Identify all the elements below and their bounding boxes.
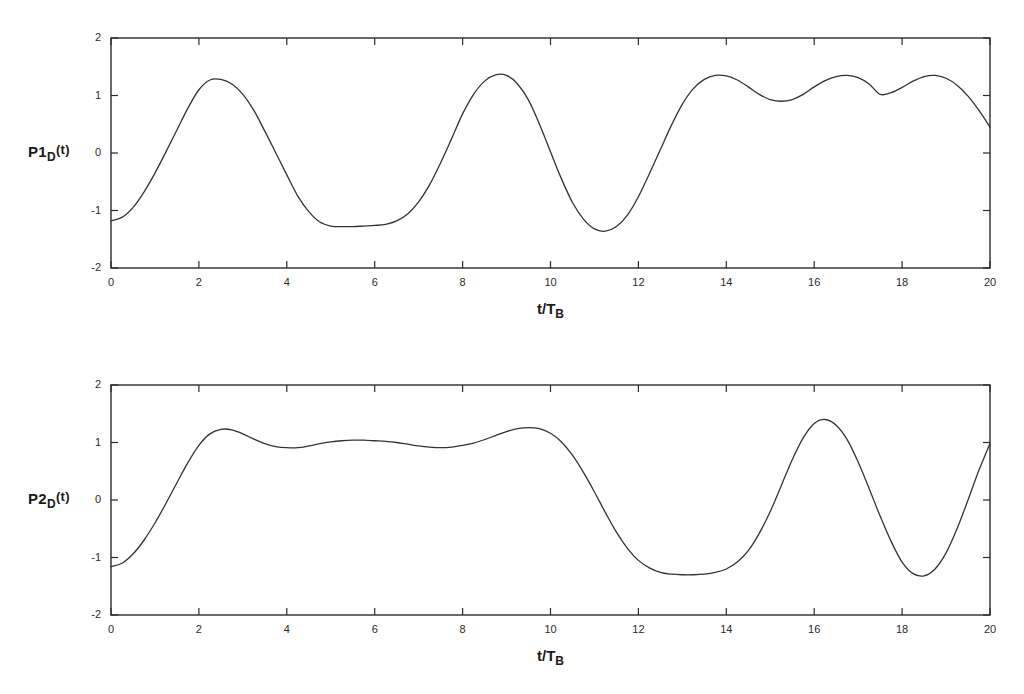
x-axis-tick-label: 16 (794, 276, 834, 288)
y-axis-tick-label: 0 (73, 493, 101, 505)
x-axis-tick-label: 14 (706, 623, 746, 635)
y-axis-tick-label: -2 (73, 608, 101, 620)
x-axis-tick-label: 6 (355, 623, 395, 635)
y-axis-label-p2d: P2D(t) (28, 489, 70, 511)
x-axis-tick-label: 2 (179, 276, 219, 288)
x-axis-tick-label: 2 (179, 623, 219, 635)
x-axis-label-subscript: B (555, 307, 564, 321)
plot-svg-p1d (0, 0, 1024, 347)
y-axis-label-subscript: D (47, 150, 56, 164)
x-axis-label-subscript: B (555, 654, 564, 668)
x-axis-tick-label: 4 (267, 276, 307, 288)
y-axis-tick-label: 2 (73, 378, 101, 390)
axis-frame (111, 385, 990, 615)
plot-svg-p2d (0, 347, 1024, 694)
y-axis-label-suffix: (t) (56, 142, 70, 157)
chart-panel-p1d: P1D(t) t/TB 02468101214161820-2-1012 (0, 0, 1024, 347)
y-axis-label-subscript: D (47, 497, 56, 511)
y-axis-label-p1d: P1D(t) (28, 142, 70, 164)
x-axis-tick-label: 10 (531, 623, 571, 635)
x-axis-tick-label: 14 (706, 276, 746, 288)
x-axis-label-main: t/T (537, 300, 555, 317)
y-axis-tick-label: 1 (73, 436, 101, 448)
x-axis-tick-label: 16 (794, 623, 834, 635)
x-axis-tick-label: 4 (267, 623, 307, 635)
y-axis-label-suffix: (t) (56, 489, 70, 504)
data-series-line (111, 419, 990, 576)
x-axis-tick-label: 18 (882, 276, 922, 288)
x-axis-label-main: t/T (537, 647, 555, 664)
y-axis-tick-label: -1 (73, 551, 101, 563)
x-axis-tick-label: 12 (618, 623, 658, 635)
data-series-line (111, 74, 990, 231)
x-axis-tick-label: 6 (355, 276, 395, 288)
x-axis-label-p1d: t/TB (537, 300, 564, 321)
y-axis-tick-label: -1 (73, 204, 101, 216)
chart-panel-p2d: P2D(t) t/TB 02468101214161820-2-1012 (0, 347, 1024, 694)
x-axis-tick-label: 8 (443, 623, 483, 635)
x-axis-tick-label: 18 (882, 623, 922, 635)
y-axis-label-main: P2 (28, 490, 47, 507)
figure-container: P1D(t) t/TB 02468101214161820-2-1012 P2D… (0, 0, 1024, 694)
y-axis-tick-label: 2 (73, 31, 101, 43)
x-axis-tick-label: 12 (618, 276, 658, 288)
x-axis-tick-label: 10 (531, 276, 571, 288)
y-axis-tick-label: -2 (73, 261, 101, 273)
x-axis-tick-label: 8 (443, 276, 483, 288)
y-axis-tick-label: 0 (73, 146, 101, 158)
x-axis-tick-label: 20 (970, 623, 1010, 635)
x-axis-tick-label: 0 (91, 276, 131, 288)
y-axis-tick-label: 1 (73, 89, 101, 101)
x-axis-tick-label: 0 (91, 623, 131, 635)
x-axis-label-p2d: t/TB (537, 647, 564, 668)
x-axis-tick-label: 20 (970, 276, 1010, 288)
axis-ticks (111, 385, 990, 615)
y-axis-label-main: P1 (28, 143, 47, 160)
